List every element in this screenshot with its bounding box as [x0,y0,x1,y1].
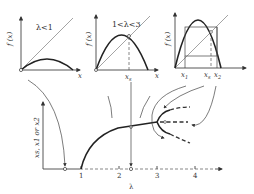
panel-period-two: f (x) x1 xs x2 [164,13,246,80]
condition-label: λ<1 [36,23,53,32]
x2-label: x2 [214,71,221,80]
xs-label: xs [204,71,211,80]
y-axis-label: f (x) [85,32,93,47]
lambda-marker-p2 [129,167,132,170]
tick-label-4: 4 [193,172,198,180]
connector-arrow-p2-right [140,96,150,118]
lambda-axis-label: λ [129,183,134,191]
unstable-fixed-point-marker [210,31,213,34]
connector-arrow-x1 [152,86,186,138]
fixed-point-branch [81,122,157,169]
fixed-point-marker [128,35,131,38]
upper-branch-dashed [170,107,190,110]
connector-arrow-xs [164,86,204,108]
y-axis-label: f (x) [6,32,14,47]
x-axis-label: x [155,72,159,80]
logistic-map-bifurcation-diagram: λ<1 f (x) x 1<λ<3 f (x) x xs f (x) x1 xs… [0,0,254,194]
x1-label: x1 [181,71,188,80]
tick-label-1: 1 [79,172,83,180]
bifurcation-plot: 1 2 3 4 λ xs, x1 or x2 [28,80,222,191]
lower-branch-dashed [170,134,190,143]
condition-label: 1<λ<3 [112,20,141,29]
lower-branch-solid [157,122,170,134]
origin-marker [95,69,98,72]
lambda-marker-p1 [63,167,66,170]
tick-label-2: 2 [117,172,121,180]
fixed-point-marker [19,68,22,71]
connector-arrow-p2-left [108,96,112,118]
unstable-point-marker [164,121,167,124]
connector-arrow-x2 [192,86,216,125]
panel-lambda-1-to-3: 1<λ<3 f (x) x xs [85,15,159,82]
panel-lambda-lt-1: λ<1 f (x) x [6,17,82,80]
tick-label-3: 3 [155,172,159,180]
upper-branch-solid [157,110,170,122]
y-axis-label: xs, x1 or x2 [33,117,41,158]
parabola-curve [21,59,73,70]
x-axis-label: x [78,72,82,80]
parabola-curve [96,35,148,70]
xs-label: xs [125,73,132,82]
y-axis-label: f (x) [164,32,172,47]
